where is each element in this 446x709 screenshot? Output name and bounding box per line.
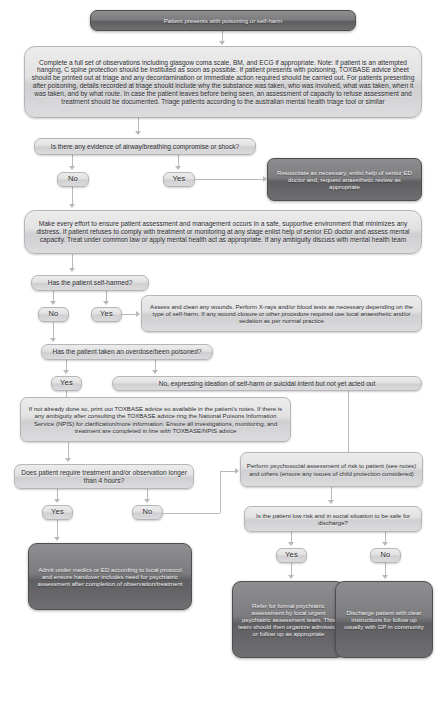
node-admit-label: Admit under medics or ED according to lo… — [34, 566, 186, 588]
node-selfharm-yes-label: Yes — [97, 310, 116, 319]
connector-durationno-right — [163, 513, 220, 514]
arrow-no-environment — [69, 204, 75, 208]
node-observations-label: Complete a full set of observations incl… — [30, 59, 416, 106]
node-lowrisk-question-label: Is the patient low risk and in social si… — [250, 512, 416, 526]
node-psychosocial-label: Perform psychosocial assessment of risk … — [246, 462, 417, 476]
arrow-lowrisk-no — [382, 542, 388, 546]
node-overdose-no: No, expressing ideation of self-harm or … — [112, 376, 422, 391]
node-duration-question-label: Does patient require treatment and/or ob… — [20, 469, 188, 485]
arrow-lowriskno-discharge — [382, 575, 388, 579]
connector-durationno-up — [220, 471, 221, 513]
arrow-lowriskyes-refer — [288, 575, 294, 579]
node-duration-yes-label: Yes — [48, 508, 67, 517]
arrow-selfharmyes-wounds — [136, 311, 140, 317]
arrow-toxbase-duration — [65, 458, 71, 462]
node-discharge-label: Discharge patient with clear instruction… — [341, 609, 427, 631]
arrow-overdose-no — [152, 370, 158, 374]
connector-yes-resuscitate — [195, 179, 265, 180]
node-selfharm-no-label: No — [44, 310, 63, 319]
node-admit: Admit under medics or ED according to lo… — [28, 543, 192, 610]
node-observations: Complete a full set of observations incl… — [24, 46, 422, 118]
node-lowrisk-no: No — [370, 548, 401, 563]
node-refer: Refer for formal psychiatric assessment … — [232, 581, 345, 658]
node-wounds-label: Assess and clean any wounds. Perform X-r… — [147, 303, 416, 325]
node-wounds: Assess and clean any wounds. Perform X-r… — [141, 295, 422, 332]
node-psychosocial: Perform psychosocial assessment of risk … — [240, 452, 423, 487]
node-refer-label: Refer for formal psychiatric assessment … — [238, 602, 339, 638]
node-lowrisk-no-label: No — [376, 551, 395, 560]
arrow-airway-no — [69, 166, 75, 170]
node-airway-no: No — [57, 172, 89, 187]
arrow-overdose-yes — [63, 370, 69, 374]
node-overdose-yes: Yes — [51, 376, 82, 391]
node-duration-no-label: No — [138, 508, 157, 517]
connector-overdoseno-psychosocial — [348, 391, 349, 459]
node-airway-question-label: Is there any evidence of airway/breathin… — [40, 143, 250, 151]
node-duration-no: No — [132, 505, 163, 520]
node-duration-question: Does patient require treatment and/or ob… — [14, 464, 194, 489]
node-overdose-question-label: Has the patient taken an overdose/been p… — [47, 348, 207, 356]
node-airway-question: Is there any evidence of airway/breathin… — [34, 138, 256, 155]
node-start: Patient presents with poisoning or self-… — [90, 10, 356, 31]
arrow-observations-airway — [135, 131, 141, 135]
node-airway-yes: Yes — [163, 172, 195, 187]
node-overdose-no-label: No, expressing ideation of self-harm or … — [118, 380, 416, 388]
node-toxbase: If not already done so, print out TOXBAS… — [20, 397, 291, 442]
node-lowrisk-yes: Yes — [276, 548, 307, 563]
node-overdose-question: Has the patient taken an overdose/been p… — [41, 344, 213, 360]
node-selfharm-yes: Yes — [91, 307, 122, 322]
node-discharge: Discharge patient with clear instruction… — [335, 581, 433, 658]
node-resuscitate: Resuscitate as necessary, enlist help of… — [267, 158, 422, 201]
node-selfharm-question-label: Has the patient self-harmed? — [37, 279, 143, 287]
node-lowrisk-yes-label: Yes — [282, 551, 301, 560]
arrow-airway-yes — [175, 166, 181, 170]
arrow-environment-selfharm — [69, 268, 75, 272]
node-toxbase-label: If not already done so, print out TOXBAS… — [26, 405, 285, 434]
arrow-selfharm-yes — [103, 301, 109, 305]
node-overdose-yes-label: Yes — [57, 379, 76, 388]
arrow-selfharm-no — [50, 301, 56, 305]
node-start-label: Patient presents with poisoning or self-… — [96, 17, 350, 24]
node-airway-yes-label: Yes — [169, 175, 189, 184]
node-duration-yes: Yes — [42, 505, 73, 520]
arrow-duration-no — [144, 499, 150, 503]
flowchart-canvas: Patient presents with poisoning or self-… — [0, 0, 446, 709]
node-lowrisk-question: Is the patient low risk and in social si… — [244, 506, 422, 532]
node-environment: Make every effort to ensure patient asse… — [24, 210, 422, 254]
node-selfharm-no: No — [38, 307, 69, 322]
arrow-lowrisk-yes — [288, 542, 294, 546]
arrow-selfharmno-overdose — [50, 338, 56, 342]
arrow-psychosocial-lowrisk — [328, 500, 334, 504]
node-airway-no-label: No — [63, 175, 83, 184]
node-selfharm-question: Has the patient self-harmed? — [31, 275, 149, 291]
arrow-durationyes-admit — [54, 537, 60, 541]
arrow-durationno-psychosocial — [235, 468, 239, 474]
node-environment-label: Make every effort to ensure patient asse… — [30, 220, 416, 243]
node-resuscitate-label: Resuscitate as necessary, enlist help of… — [273, 169, 416, 191]
arrow-duration-yes — [54, 499, 60, 503]
arrow-start-observations — [219, 41, 225, 45]
